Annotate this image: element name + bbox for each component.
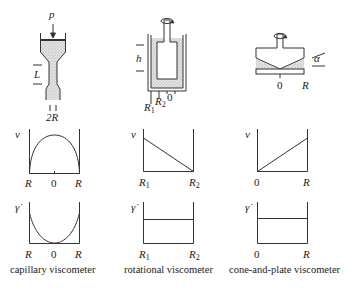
capillary-velocity-xlabel-left: R bbox=[25, 178, 32, 189]
rotational-caption: rotational viscometer bbox=[124, 265, 213, 276]
rotational-velocity-ylabel: v bbox=[131, 129, 136, 140]
capillary-shear-xlabel-left: R bbox=[25, 249, 32, 260]
r1-label: R1 bbox=[144, 102, 155, 115]
cone-shear-xlabel-left: 0 bbox=[254, 249, 260, 260]
viscometer-diagram bbox=[0, 0, 351, 288]
rotational-device bbox=[136, 19, 186, 105]
rotational-shear-plot bbox=[144, 202, 194, 244]
capillary-shear-ylabel: γ̇ bbox=[15, 202, 19, 213]
cone-velocity-xlabel-right: R bbox=[303, 177, 310, 188]
cone-plate-shear-plot bbox=[258, 202, 308, 244]
rotational-velocity-xlabel-right-sub: 2 bbox=[196, 181, 200, 190]
rotational-center-label: 0 bbox=[167, 92, 173, 103]
r1-label-text: R bbox=[144, 101, 151, 113]
rotational-velocity-xlabel-left-text: R bbox=[139, 176, 146, 188]
cone-radius-label: R bbox=[302, 80, 309, 91]
r2-label-sub: 2 bbox=[162, 100, 166, 109]
capillary-velocity-xlabel-mid: 0 bbox=[51, 178, 57, 189]
rotational-shear-xlabel-left: R1 bbox=[139, 249, 150, 262]
capillary-caption: capillary viscometer bbox=[10, 265, 95, 276]
rotational-velocity-xlabel-right: R2 bbox=[189, 177, 200, 190]
capillary-shear-xlabel-mid: 0 bbox=[51, 249, 57, 260]
rotational-velocity-xlabel-left-sub: 1 bbox=[146, 181, 150, 190]
capillary-velocity-ylabel: v bbox=[15, 129, 20, 140]
cone-shear-ylabel: γ̇ bbox=[245, 202, 249, 213]
diameter-label: 2R bbox=[46, 112, 58, 123]
rotational-shear-ylabel: γ̇ bbox=[131, 202, 135, 213]
rotational-velocity-xlabel-left: R1 bbox=[139, 177, 150, 190]
capillary-velocity-xlabel-right: R bbox=[75, 178, 82, 189]
cone-shear-xlabel-right: R bbox=[303, 249, 310, 260]
cone-velocity-ylabel: v bbox=[245, 129, 250, 140]
rotational-velocity-xlabel-right-text: R bbox=[189, 176, 196, 188]
r2-label-text: R bbox=[155, 95, 162, 107]
cone-center-label: 0 bbox=[277, 80, 283, 91]
capillary-shear-plot bbox=[30, 202, 80, 244]
rotational-shear-xlabel-left-sub: 1 bbox=[146, 253, 150, 262]
rotational-shear-xlabel-left-text: R bbox=[139, 248, 146, 260]
length-label: L bbox=[34, 69, 40, 80]
capillary-velocity-plot bbox=[30, 129, 80, 174]
r2-label: R2 bbox=[155, 96, 166, 109]
angle-label: α bbox=[314, 53, 320, 64]
pressure-label: p bbox=[49, 9, 55, 20]
cone-velocity-xlabel-left: 0 bbox=[254, 177, 260, 188]
rotational-velocity-plot bbox=[144, 129, 194, 172]
cone-plate-velocity-plot bbox=[258, 129, 308, 172]
rotational-shear-xlabel-right-text: R bbox=[189, 248, 196, 260]
cone-plate-caption: cone-and-plate viscometer bbox=[229, 265, 340, 276]
capillary-shear-xlabel-right: R bbox=[75, 249, 82, 260]
rotational-shear-xlabel-right-sub: 2 bbox=[196, 253, 200, 262]
height-label: h bbox=[136, 53, 142, 64]
rotational-shear-xlabel-right: R2 bbox=[189, 249, 200, 262]
